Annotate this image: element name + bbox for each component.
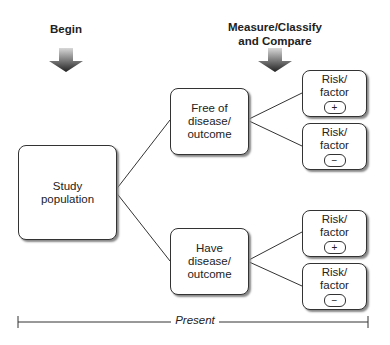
node-text: Risk/ xyxy=(322,73,348,86)
node-text: Study xyxy=(53,180,82,193)
risk-factor-positive-box: Risk/ factor + xyxy=(302,210,367,257)
timeline: Present xyxy=(0,314,390,326)
risk-factor-positive-box: Risk/ factor + xyxy=(302,70,367,117)
node-text: Free of xyxy=(191,102,227,115)
plus-icon: + xyxy=(324,101,346,114)
node-text: disease/ xyxy=(188,115,231,128)
node-text: outcome xyxy=(187,268,231,281)
node-text: factor xyxy=(320,279,349,292)
node-text: factor xyxy=(320,139,349,152)
node-text: Risk/ xyxy=(322,266,348,279)
node-text: outcome xyxy=(187,128,231,141)
node-text: factor xyxy=(320,86,349,99)
node-text: Risk/ xyxy=(322,126,348,139)
node-text: Have xyxy=(196,242,223,255)
risk-factor-negative-box: Risk/ factor − xyxy=(302,263,367,310)
free-of-disease-box: Free of disease/ outcome xyxy=(170,88,249,155)
have-disease-box: Have disease/ outcome xyxy=(170,228,249,295)
timeline-label: Present xyxy=(171,314,219,326)
minus-icon: − xyxy=(324,154,346,167)
measure-arrow-icon xyxy=(258,48,292,72)
node-text: disease/ xyxy=(188,255,231,268)
minus-icon: − xyxy=(324,294,346,307)
node-text: factor xyxy=(320,226,349,239)
plus-icon: + xyxy=(324,241,346,254)
begin-arrow-icon xyxy=(49,48,83,72)
measure-label: Measure/Classify and Compare xyxy=(225,20,325,48)
begin-label: Begin xyxy=(40,22,92,36)
risk-factor-negative-box: Risk/ factor − xyxy=(302,123,367,170)
node-text: population xyxy=(41,193,94,206)
node-text: Risk/ xyxy=(322,213,348,226)
study-population-box: Study population xyxy=(18,145,117,240)
